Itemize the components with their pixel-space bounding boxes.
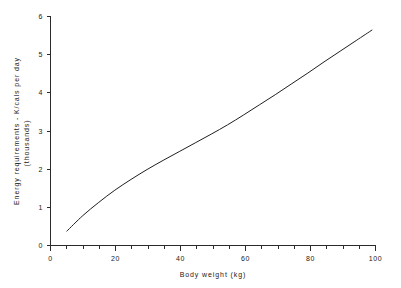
y-axis-title-line2: (thousands) xyxy=(23,120,31,167)
y-tick-label-3: 3 xyxy=(39,128,44,135)
chart-page: 0 1 2 3 4 5 6 xyxy=(0,0,401,288)
y-tick-label-1: 1 xyxy=(39,204,44,211)
x-tick-label-20: 20 xyxy=(111,255,120,262)
y-axis-ticks xyxy=(47,17,51,246)
x-axis-title: Body weight (kg) xyxy=(180,271,247,279)
axes-group xyxy=(51,17,376,246)
y-tick-label-5: 5 xyxy=(39,51,44,58)
y-axis-title-line1: Energy requirements - K/cals per day xyxy=(13,57,21,205)
x-tick-label-40: 40 xyxy=(176,255,185,262)
y-axis-tick-labels: 0 1 2 3 4 5 6 xyxy=(39,13,44,249)
y-tick-label-2: 2 xyxy=(39,166,44,173)
x-tick-label-80: 80 xyxy=(306,255,315,262)
y-tick-label-4: 4 xyxy=(39,89,44,96)
energy-requirement-curve xyxy=(67,30,373,232)
y-tick-label-0: 0 xyxy=(39,242,44,249)
y-tick-label-6: 6 xyxy=(39,13,44,20)
energy-requirement-line-chart: 0 1 2 3 4 5 6 xyxy=(0,0,401,288)
x-axis-tick-labels: 0 20 40 60 80 100 xyxy=(48,255,382,262)
x-tick-label-60: 60 xyxy=(241,255,250,262)
x-tick-label-0: 0 xyxy=(48,255,53,262)
x-tick-label-100: 100 xyxy=(369,255,382,262)
